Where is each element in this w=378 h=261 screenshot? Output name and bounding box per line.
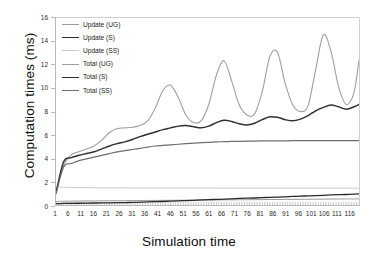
legend-item: Update (S) — [62, 31, 162, 44]
legend-item: Update (UG) — [62, 18, 162, 31]
x-axis-title: Simulation time — [0, 234, 378, 249]
chart-figure: Computation times (ms) Simulation time 0… — [0, 0, 378, 261]
y-tick-label: 0 — [28, 203, 48, 210]
y-tick-label: 16 — [28, 14, 48, 21]
legend-item: Total (UG) — [62, 58, 162, 71]
x-tick-label: 116 — [339, 210, 361, 217]
legend-label: Total (SS) — [83, 87, 112, 95]
chart-legend: Update (UG)Update (S)Update (SS)Total (U… — [62, 18, 162, 97]
y-tick-label: 12 — [28, 61, 48, 68]
legend-item: Total (S) — [62, 71, 162, 84]
y-tick-mark — [51, 206, 55, 207]
legend-item: Update (SS) — [62, 44, 162, 57]
legend-color-swatch — [62, 77, 79, 78]
y-tick-label: 2 — [28, 179, 48, 186]
y-tick-label: 10 — [28, 84, 48, 91]
y-tick-label: 8 — [28, 108, 48, 115]
legend-item: Total (SS) — [62, 84, 162, 97]
series-line — [56, 104, 359, 192]
legend-color-swatch — [62, 50, 79, 51]
y-tick-label: 4 — [28, 155, 48, 162]
y-tick-label: 14 — [28, 37, 48, 44]
legend-label: Update (SS) — [83, 47, 119, 55]
legend-label: Total (S) — [83, 73, 108, 81]
legend-color-swatch — [62, 64, 79, 65]
legend-label: Update (S) — [83, 34, 115, 42]
legend-color-swatch — [62, 90, 79, 91]
legend-label: Update (UG) — [83, 21, 120, 29]
legend-color-swatch — [62, 24, 79, 25]
series-line — [56, 187, 359, 188]
legend-label: Total (UG) — [83, 60, 113, 68]
y-tick-label: 6 — [28, 132, 48, 139]
legend-color-swatch — [62, 37, 79, 38]
